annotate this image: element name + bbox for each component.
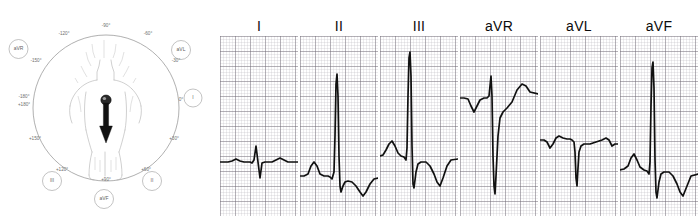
ecg-strip-label-II: II [300,18,378,34]
degree-label-zero: 0° [179,97,184,102]
lead-bubble-I[interactable]: I [184,89,202,107]
ecg-trace-II [300,36,378,216]
ecg-strip-aVL[interactable]: aVL [540,18,618,216]
ecg-strips-panel: I II III [212,0,675,223]
lead-bubble-label-aVR: aVR [14,45,24,51]
ecg-strip-label-aVL: aVL [540,18,618,34]
ecg-trace-aVF [620,36,698,216]
lead-bubble-II[interactable]: II [143,172,162,191]
hexaxial-axis-panel: -90° -60° -120° -30° -150° 0° -180° +180… [0,0,212,223]
degree-label-plus60: +60° [141,167,151,172]
degree-label-minus150: -150° [30,58,41,63]
degree-label-plus150: +150° [29,136,41,141]
ecg-trace-aVR [460,36,538,216]
lead-bubble-label-III: III [50,177,54,183]
ecg-trace-I [220,36,298,216]
degree-label-minus90: -90° [102,23,111,28]
hexaxial-diagram: -90° -60° -120° -30° -150° 0° -180° +180… [0,0,212,223]
ecg-strip-aVF[interactable]: aVF [620,18,698,216]
lead-bubble-aVR[interactable]: aVR [9,40,28,59]
degree-label-plus90: +90° [101,177,111,182]
ecg-strip-label-aVF: aVF [620,18,698,34]
ecg-strip-label-aVR: aVR [460,18,538,34]
degree-label-minus30: -30° [172,58,181,63]
lead-bubble-label-aVL: aVL [177,46,186,52]
degree-label-minus180: -180° [18,94,29,99]
lead-bubble-aVF[interactable]: aVF [95,190,114,209]
ecg-strip-I[interactable]: I [220,18,298,216]
ecg-strip-III[interactable]: III [380,18,458,216]
lead-bubble-label-II: II [151,177,154,183]
lead-bubble-aVL[interactable]: aVL [172,41,191,60]
degree-label-minus120: -120° [58,31,69,36]
ecg-strip-label-I: I [220,18,298,34]
lead-bubble-label-aVF: aVF [99,195,108,201]
ecg-trace-aVL [540,36,618,216]
lead-bubble-label-I: I [192,94,193,100]
ecg-strip-label-III: III [380,18,458,34]
ecg-trace-III [380,36,458,216]
degree-label-plus180: +180° [18,102,30,107]
ecg-strip-aVR[interactable]: aVR [460,18,538,216]
ecg-strip-II[interactable]: II [300,18,378,216]
mean-qrs-vector-arrow [100,103,113,143]
degree-label-plus30: +30° [169,136,179,141]
lead-bubble-III[interactable]: III [43,172,62,191]
heart-highlight [103,97,106,100]
degree-label-minus60: -60° [144,31,153,36]
degree-label-plus120: +120° [56,167,68,172]
